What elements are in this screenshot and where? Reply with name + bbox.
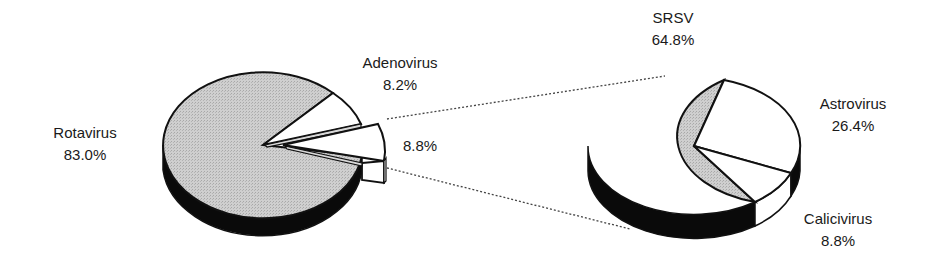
label-adenovirus-name: Adenovirus <box>362 54 437 71</box>
exploded-slice-right-depth <box>384 158 386 183</box>
label-calicivirus-name: Calicivirus <box>804 210 872 227</box>
label-srsv-name: SRSV <box>653 9 694 26</box>
connector-line-top <box>387 76 665 119</box>
right-pie <box>588 80 800 238</box>
label-srsv-pct: 64.8% <box>652 31 695 48</box>
pie-of-pie-chart: Rotavirus 83.0% Adenovirus 8.2% 8.8% SRS… <box>0 0 931 269</box>
left-pie <box>163 72 386 236</box>
label-rotavirus-pct: 83.0% <box>64 146 107 163</box>
label-rotavirus-name: Rotavirus <box>53 124 116 141</box>
label-astrovirus-name: Astrovirus <box>820 95 887 112</box>
exploded-slice-side <box>362 161 384 183</box>
label-calicivirus-pct: 8.8% <box>821 232 855 249</box>
label-exploded-pct: 8.8% <box>403 137 437 154</box>
label-astrovirus-pct: 26.4% <box>832 117 875 134</box>
label-adenovirus-pct: 8.2% <box>383 76 417 93</box>
